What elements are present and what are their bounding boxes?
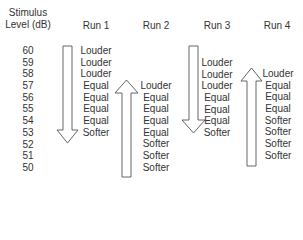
up-arrow-icon <box>115 80 138 177</box>
response: Softer <box>258 138 298 150</box>
response: Softer <box>136 150 176 162</box>
response: Louder <box>136 80 176 92</box>
response: Softer <box>136 138 176 150</box>
response: Equal <box>76 103 116 115</box>
response: Softer <box>76 127 116 139</box>
response: Louder <box>197 57 237 69</box>
response: Equal <box>76 115 116 127</box>
response: Equal <box>197 92 237 104</box>
response: Louder <box>76 68 116 80</box>
response: Equal <box>258 80 298 92</box>
response: Softer <box>136 162 176 174</box>
response: Louder <box>76 57 116 69</box>
response: Equal <box>76 80 116 92</box>
response: Equal <box>136 115 176 127</box>
response: Louder <box>197 80 237 92</box>
run-2-responses: Louder Equal Equal Equal Equal Softer So… <box>136 80 176 174</box>
response: Equal <box>136 127 176 139</box>
response: Equal <box>258 91 298 103</box>
response: Equal <box>258 103 298 115</box>
response: Equal <box>76 92 116 104</box>
response: Equal <box>136 92 176 104</box>
response: Softer <box>258 150 298 162</box>
response: Louder <box>258 68 298 80</box>
down-arrow-icon <box>57 46 78 143</box>
run-4-responses: Louder Equal Equal Equal Softer Softer S… <box>258 68 298 162</box>
response: Equal <box>136 103 176 115</box>
response: Louder <box>76 45 116 57</box>
run-1-responses: Louder Louder Louder Equal Equal Equal E… <box>76 45 116 139</box>
response: Softer <box>258 126 298 138</box>
response: Equal <box>197 104 237 116</box>
response: Softer <box>197 127 237 139</box>
run-3-responses: Louder Louder Louder Equal Equal Equal S… <box>197 57 237 139</box>
response: Softer <box>258 115 298 127</box>
response: Equal <box>197 115 237 127</box>
response: Louder <box>197 69 237 81</box>
